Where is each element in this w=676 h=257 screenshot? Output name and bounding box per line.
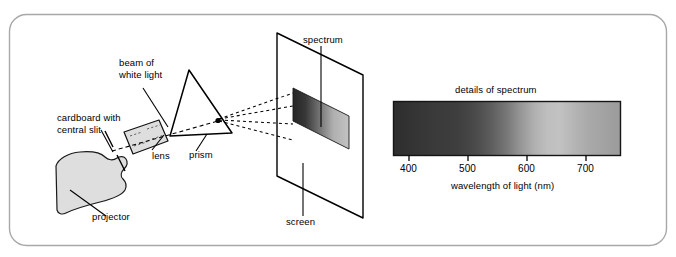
label-screen: screen	[286, 216, 315, 228]
tick-label-600: 600	[518, 163, 535, 175]
label-prism: prism	[189, 149, 213, 161]
label-details-of-spectrum: details of spectrum	[455, 84, 537, 96]
tick-label-700: 700	[577, 163, 594, 175]
label-spectrum: spectrum	[303, 34, 343, 46]
tick-label-400: 400	[400, 163, 417, 175]
label-projector: projector	[92, 211, 130, 223]
label-beam-of-white-light-line1: beam of	[119, 57, 154, 69]
tick-label-500: 500	[459, 163, 476, 175]
label-beam-of-white-light-line2: white light	[119, 69, 162, 81]
figure-root: beam of white light cardboard with centr…	[0, 0, 676, 257]
spectrum-detail-bar	[394, 102, 621, 156]
label-cardboard-with-line2: central slit	[57, 124, 101, 136]
label-cardboard-with-line1: cardboard with	[57, 112, 121, 124]
axis-label-wavelength: wavelength of light (nm)	[451, 180, 554, 192]
label-lens: lens	[152, 150, 170, 162]
